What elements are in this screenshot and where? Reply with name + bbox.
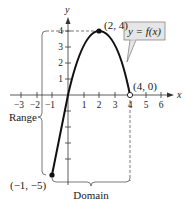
- x-tick-labels: −3 −2 −1 1 2 3 4 5 6: [14, 100, 164, 110]
- svg-text:4: 4: [58, 26, 63, 36]
- svg-text:2: 2: [58, 58, 63, 68]
- function-label: y = f(x): [127, 25, 161, 38]
- svg-text:−1: −1: [45, 100, 55, 110]
- range-label: Range: [9, 111, 37, 123]
- svg-text:4: 4: [128, 100, 133, 110]
- function-curve: [52, 31, 130, 175]
- y-tick-labels: 1 2 3 4: [58, 26, 63, 84]
- dashed-guides: [46, 31, 130, 181]
- domain-brace: [52, 178, 130, 186]
- svg-text:2: 2: [97, 100, 102, 110]
- left-endpoint-point: [49, 172, 54, 177]
- right-endpoint-label: (4, 0): [133, 80, 157, 93]
- svg-text:−3: −3: [14, 100, 24, 110]
- x-axis: [10, 92, 174, 98]
- svg-text:1: 1: [82, 100, 87, 110]
- svg-text:3: 3: [113, 100, 118, 110]
- x-axis-label: x: [176, 89, 182, 100]
- function-graph: y = f(x) x y −3 −2 −1 1 2 3 4 5 6 1 2 3 …: [0, 0, 188, 206]
- svg-text:1: 1: [58, 74, 63, 84]
- vertex-point: [96, 28, 101, 33]
- left-endpoint-label: (−1, −5): [10, 179, 47, 192]
- svg-text:3: 3: [58, 42, 63, 52]
- svg-text:5: 5: [144, 100, 149, 110]
- svg-text:−2: −2: [30, 100, 40, 110]
- y-axis-label: y: [64, 4, 70, 15]
- domain-label: Domain: [73, 189, 109, 201]
- svg-text:6: 6: [159, 100, 164, 110]
- vertex-label: (2, 4): [104, 19, 128, 32]
- right-endpoint-open-point: [127, 92, 132, 97]
- function-label-callout: y = f(x): [124, 22, 165, 62]
